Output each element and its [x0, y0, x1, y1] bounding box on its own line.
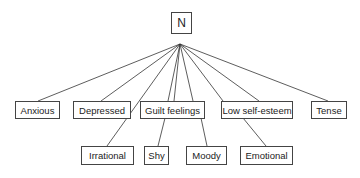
- node-emotional: Emotional: [240, 146, 293, 165]
- node-anxious: Anxious: [15, 101, 60, 119]
- node-shy: Shy: [144, 146, 169, 165]
- edge-line: [180, 44, 259, 101]
- node-moody: Moody: [186, 146, 227, 165]
- root-node-n: N: [171, 12, 192, 34]
- node-depressed: Depressed: [73, 101, 131, 119]
- node-irrational: Irrational: [81, 146, 134, 165]
- edge-line: [180, 44, 328, 101]
- node-lowself: Low self-esteem: [221, 101, 293, 119]
- edge-line: [158, 118, 165, 146]
- edge-line: [174, 44, 180, 101]
- edge-line: [201, 118, 207, 146]
- node-tense: Tense: [311, 101, 347, 119]
- edge-line: [38, 44, 180, 101]
- edge-line: [243, 118, 266, 146]
- edge-line: [101, 44, 180, 101]
- factor-diagram: NAnxiousDepressedGuilt feelingsLow self-…: [0, 0, 360, 178]
- node-guilt: Guilt feelings: [140, 101, 205, 119]
